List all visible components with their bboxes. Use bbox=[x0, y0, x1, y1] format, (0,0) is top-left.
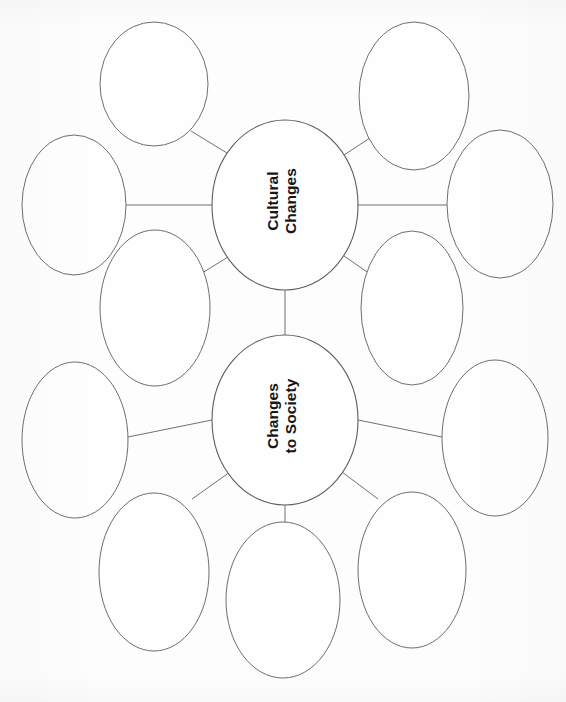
center-bubble-cultural-changes[interactable] bbox=[212, 120, 358, 290]
connector-cultural-to-top-left bbox=[191, 131, 227, 153]
connector-society-to-right bbox=[358, 420, 442, 437]
satellite-bubble-cs-bottom-center[interactable] bbox=[226, 522, 340, 678]
satellite-bubble-cs-bottom-left[interactable] bbox=[99, 493, 209, 651]
connector-society-to-bottom-left bbox=[192, 472, 230, 499]
satellite-bubble-cc-left[interactable] bbox=[22, 135, 126, 275]
worksheet-canvas: Cultural Changes Changes to Society bbox=[0, 0, 566, 702]
connector-society-to-bottom-right bbox=[342, 472, 378, 499]
satellite-bubble-cs-right[interactable] bbox=[442, 360, 548, 516]
satellite-bubble-cc-bottom-right[interactable] bbox=[361, 231, 463, 385]
satellite-bubble-cs-left[interactable] bbox=[22, 362, 128, 518]
satellite-bubble-cs-bottom-right[interactable] bbox=[358, 492, 466, 648]
concept-web-diagram bbox=[0, 0, 566, 702]
center-bubble-changes-to-society[interactable] bbox=[212, 335, 358, 505]
satellite-bubble-cc-top-left[interactable] bbox=[100, 22, 208, 146]
satellite-bubble-cc-bottom-left[interactable] bbox=[100, 230, 210, 386]
connector-society-to-left bbox=[128, 420, 212, 437]
satellite-bubble-cc-top-right[interactable] bbox=[359, 22, 469, 170]
satellite-bubble-cc-right[interactable] bbox=[447, 130, 553, 278]
